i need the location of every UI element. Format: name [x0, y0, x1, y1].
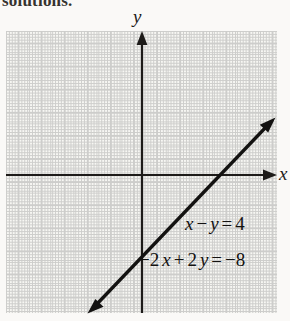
equation-1-equals: =	[222, 213, 233, 234]
equation-2-coef-a: −2	[139, 249, 159, 270]
equation-2-equals: =	[211, 249, 222, 270]
graph-drawing-layer	[0, 0, 290, 321]
graph-figure: solutions. y x x−y=4 −2x+2y=−8	[0, 0, 290, 321]
equation-1-term-x: x	[185, 213, 193, 234]
equation-2-plus: +	[174, 249, 185, 270]
equation-2-coef-b: 2	[187, 249, 197, 270]
equation-1-rhs: 4	[235, 213, 245, 234]
equation-label-1: x−y=4	[185, 213, 248, 235]
equation-label-2: −2x+2y=−8	[139, 249, 248, 271]
equation-2-var-x: x	[162, 249, 170, 270]
equation-1-minus: −	[196, 213, 207, 234]
y-axis-label: y	[133, 6, 141, 28]
equation-2-rhs: −8	[225, 249, 245, 270]
x-axis-label: x	[279, 163, 287, 185]
equation-1-term-y: y	[210, 213, 218, 234]
equation-2-var-y: y	[200, 249, 208, 270]
